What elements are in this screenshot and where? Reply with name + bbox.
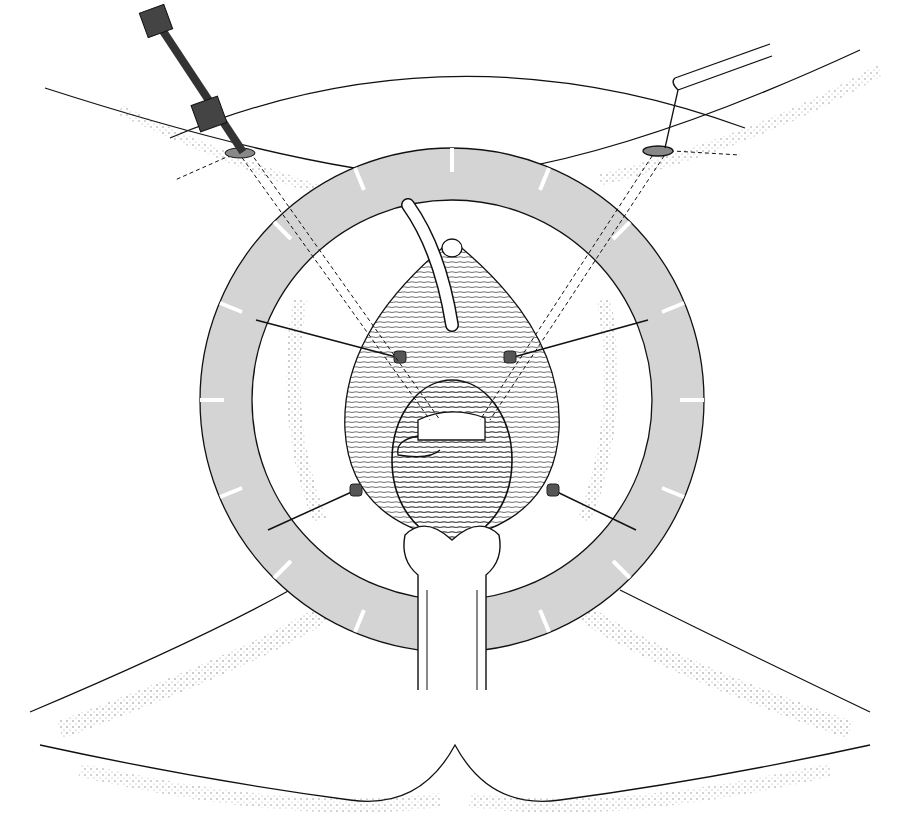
- trocar-left: [139, 4, 255, 158]
- grasper-right: [643, 44, 772, 156]
- vaginal-region: [345, 239, 559, 540]
- surgical-illustration: [0, 0, 908, 836]
- illustration-svg: [0, 0, 908, 836]
- speculum-blade: [404, 526, 500, 690]
